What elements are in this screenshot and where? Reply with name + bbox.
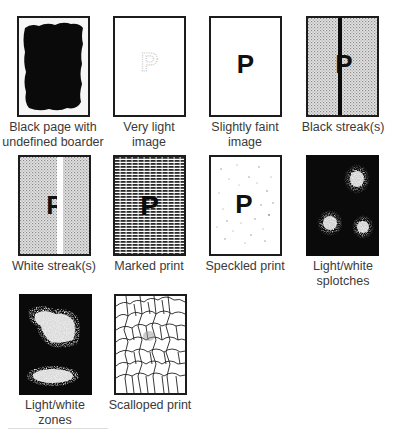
caption-line-1: Light/white <box>0 398 110 413</box>
scalloped-print-illustration <box>116 296 185 393</box>
tile-light-white-splotches <box>306 155 379 256</box>
speckled-print-illustration: P <box>211 157 280 254</box>
caption-black-streaks: Black streak(s) <box>288 120 396 135</box>
caption-line-2: undefined boarder <box>0 135 108 150</box>
tile-scalloped-print <box>114 294 187 395</box>
caption-very-light: Very light image <box>94 120 204 150</box>
caption-white-streaks: White streak(s) <box>0 259 109 274</box>
caption-light-white-splotches: Light/white splotches <box>288 259 396 289</box>
black-streaks-illustration: P <box>308 18 377 115</box>
caption-black-page: Black page with undefined boarder <box>0 120 108 150</box>
caption-slightly-faint: Slightly faint image <box>190 120 300 150</box>
tile-marked-print: P <box>113 155 186 256</box>
svg-text:P: P <box>335 49 352 79</box>
caption-line-1: Black streak(s) <box>288 120 396 135</box>
caption-line-2: image <box>94 135 204 150</box>
caption-line-1: Marked print <box>94 259 204 274</box>
marked-print-illustration: P <box>115 157 184 254</box>
black-page-illustration <box>19 18 88 115</box>
caption-line-1: Speckled print <box>190 259 300 274</box>
caption-light-white-zones: Light/white zones <box>0 398 110 428</box>
tile-black-streaks: P <box>306 16 379 117</box>
caption-speckled-print: Speckled print <box>190 259 300 274</box>
caption-line-2: splotches <box>288 274 396 289</box>
very-light-illustration: P <box>115 18 184 115</box>
tile-slightly-faint: P <box>209 16 282 117</box>
light-white-splotches-illustration <box>308 157 377 254</box>
caption-line-1: Slightly faint <box>190 120 300 135</box>
svg-text:P: P <box>140 190 159 221</box>
caption-line-1: Scalloped print <box>95 398 205 413</box>
caption-line-1: White streak(s) <box>0 259 109 274</box>
divider <box>8 428 108 429</box>
tile-very-light: P <box>113 16 186 117</box>
svg-text:P: P <box>141 47 158 77</box>
caption-line-1: Very light <box>94 120 204 135</box>
caption-line-2: image <box>190 135 300 150</box>
tile-speckled-print: P <box>209 155 282 256</box>
caption-scalloped-print: Scalloped print <box>95 398 205 413</box>
light-white-zones-illustration <box>21 296 90 393</box>
svg-text:P: P <box>235 189 252 219</box>
caption-line-1: Black page with <box>0 120 108 135</box>
caption-line-2: zones <box>0 413 110 428</box>
slightly-faint-illustration: P <box>211 18 280 115</box>
white-streaks-illustration: P <box>20 157 89 254</box>
tile-white-streaks: P <box>18 155 91 256</box>
tile-light-white-zones <box>19 294 92 395</box>
tile-black-page <box>17 16 90 117</box>
caption-marked-print: Marked print <box>94 259 204 274</box>
caption-line-1: Light/white <box>288 259 396 274</box>
svg-text:P: P <box>237 49 254 79</box>
